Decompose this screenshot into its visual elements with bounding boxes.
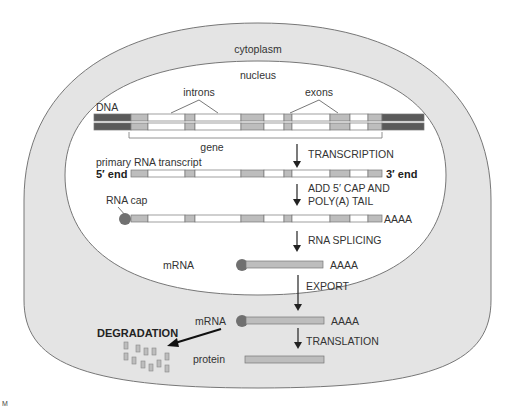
five-prime-end-label: 5′ end: [96, 168, 127, 180]
step-export: EXPORT: [306, 280, 350, 292]
three-prime-end-label: 3′ end: [386, 168, 417, 180]
step-cap-tail-line2: POLY(A) TAIL: [308, 195, 374, 207]
step-translation: TRANSLATION: [306, 335, 379, 347]
dna-label: DNA: [96, 101, 118, 113]
step-cap-tail-line1: ADD 5′ CAP AND: [308, 182, 390, 194]
poly-a-tail-1: AAAA: [384, 213, 412, 225]
step-transcription: TRANSCRIPTION: [308, 148, 394, 160]
mrna-cytoplasm-label: mRNA: [195, 315, 226, 327]
poly-a-tail-3: AAAA: [331, 315, 359, 327]
protein-bar: [245, 356, 324, 363]
corner-mark: M: [2, 400, 8, 407]
rna-cap-label: RNA cap: [106, 194, 148, 206]
gene-label: gene: [200, 141, 224, 153]
cytoplasm-mrna-bar: [246, 317, 324, 324]
capped-pre-mrna: [131, 215, 382, 222]
primary-rna-transcript: [131, 170, 382, 177]
poly-a-tail-2: AAAA: [330, 259, 358, 271]
gene-expression-diagram: cytoplasm nucleus introns exons DNA: [0, 0, 515, 408]
degradation-label: DEGRADATION: [97, 327, 178, 339]
exons-label: exons: [305, 86, 333, 98]
protein-label: protein: [193, 353, 225, 365]
step-rna-splicing: RNA SPLICING: [308, 234, 382, 246]
introns-label: introns: [183, 86, 215, 98]
cytoplasm-label: cytoplasm: [234, 43, 282, 55]
nucleus-label: nucleus: [240, 69, 276, 81]
mature-mrna-bar: [246, 261, 323, 268]
primary-transcript-label: primary RNA transcript: [96, 156, 202, 168]
rna-cap-icon: [119, 213, 131, 225]
mrna-nucleus-label: mRNA: [163, 259, 194, 271]
